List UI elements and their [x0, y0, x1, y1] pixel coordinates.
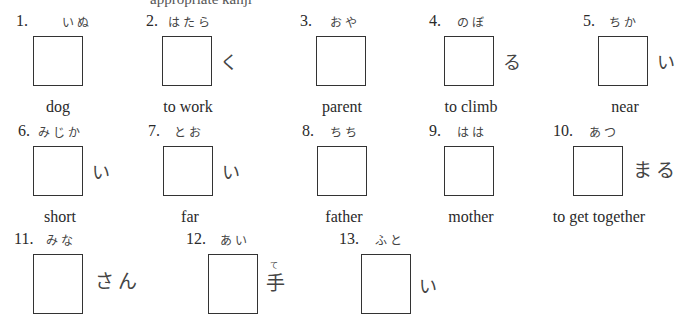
kanji-answer-box[interactable] — [444, 36, 494, 86]
question-number: 4. — [429, 12, 441, 30]
question-number: 5. — [583, 12, 595, 30]
okurigana: い — [419, 272, 441, 298]
kanji-answer-box[interactable] — [33, 146, 83, 196]
question-5: 5. ちか い near — [583, 12, 676, 122]
furigana: はは — [457, 123, 487, 140]
okurigana-kanji: て 手 — [266, 268, 289, 295]
question-number: 13. — [339, 230, 359, 248]
question-number: 6. — [18, 122, 30, 140]
kanji-answer-box[interactable] — [208, 254, 258, 314]
kanji-answer-box[interactable] — [33, 254, 83, 314]
okurigana: い — [92, 158, 114, 184]
furigana: とお — [174, 123, 204, 140]
question-11: 11. みな さん — [14, 230, 144, 318]
question-number: 9. — [429, 122, 441, 140]
question-number: 10. — [553, 122, 573, 140]
english-gloss: near — [555, 98, 676, 116]
kanji-answer-box[interactable] — [598, 36, 648, 86]
kanji-answer-box[interactable] — [316, 36, 366, 86]
furigana: ちち — [330, 123, 360, 140]
furigana: おや — [330, 13, 360, 30]
english-gloss: short — [0, 208, 130, 226]
question-number: 2. — [146, 12, 158, 30]
furigana: ちか — [609, 13, 639, 30]
kanji-answer-box[interactable] — [573, 146, 623, 196]
okurigana-text: 手 — [266, 272, 289, 294]
furigana: のぼ — [457, 13, 487, 30]
furigana: みな — [46, 231, 76, 248]
okurigana: く — [220, 48, 242, 74]
english-gloss: to climb — [401, 98, 541, 116]
question-number: 12. — [186, 230, 206, 248]
kanji-answer-box[interactable] — [163, 146, 213, 196]
furigana: あい — [220, 231, 250, 248]
okurigana: る — [503, 48, 525, 74]
okurigana: い — [657, 48, 676, 74]
english-gloss: to work — [118, 98, 258, 116]
okurigana: い — [222, 158, 244, 184]
english-gloss: mother — [401, 208, 541, 226]
question-number: 7. — [148, 122, 160, 140]
furigana: いぬ — [62, 13, 92, 30]
question-2: 2. はたら く to work — [146, 12, 276, 122]
question-number: 8. — [302, 122, 314, 140]
english-gloss: to get together — [529, 208, 669, 226]
english-gloss: parent — [272, 98, 412, 116]
english-gloss: far — [120, 208, 260, 226]
question-number: 1. — [16, 12, 28, 30]
kanji-answer-box[interactable] — [361, 254, 411, 314]
furigana: あつ — [589, 123, 619, 140]
question-13: 13. ふと い — [339, 230, 469, 318]
question-4: 4. のぼ る to climb — [429, 12, 559, 122]
english-gloss: dog — [0, 98, 128, 116]
question-number: 3. — [300, 12, 312, 30]
kanji-answer-box[interactable] — [317, 146, 367, 196]
furigana: ふと — [375, 231, 405, 248]
clipped-instruction-text: appropriate kanji — [150, 0, 252, 8]
furigana: はたら — [168, 13, 213, 30]
kanji-answer-box[interactable] — [444, 146, 494, 196]
english-gloss: father — [274, 208, 414, 226]
furigana: みじか — [38, 123, 83, 140]
okurigana-ruby: て — [270, 259, 282, 270]
kanji-answer-box[interactable] — [33, 36, 83, 86]
kanji-answer-box[interactable] — [162, 36, 212, 86]
question-number: 11. — [14, 230, 33, 248]
question-10: 10. あつ まる to get together — [553, 122, 676, 232]
question-12: 12. あい て 手 — [186, 230, 316, 318]
okurigana: まる — [633, 155, 676, 182]
question-7: 7. とお い far — [148, 122, 278, 232]
okurigana: さん — [95, 266, 141, 293]
